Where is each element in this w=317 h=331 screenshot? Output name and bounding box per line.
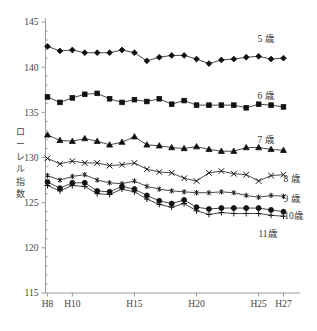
data-point-square: [207, 103, 212, 108]
data-point-square: [182, 98, 187, 103]
data-point-square: [232, 103, 237, 108]
axis-frame: [46, 18, 301, 293]
series-inline-labels: 5 歳6 歳7 歳8 歳9 歳10歳11歳: [257, 33, 303, 239]
data-point-triangle: [243, 144, 249, 149]
data-point-square: [169, 102, 174, 107]
data-point-triangle: [119, 139, 125, 144]
data-point-diamond: [69, 47, 75, 53]
data-point-diamond: [132, 50, 138, 56]
series-label-6歳: 6 歳: [257, 90, 274, 101]
data-point-square: [132, 97, 137, 102]
data-point-diamond: [82, 50, 88, 56]
y-tick-label: 125: [24, 198, 39, 208]
data-point-diamond: [169, 53, 175, 59]
y-tick-label: 135: [24, 108, 39, 118]
data-point-plus: [243, 211, 249, 217]
data-point-diamond: [231, 56, 237, 62]
x-tick-label: H25: [250, 299, 267, 309]
series-11歳: [45, 183, 287, 220]
y-tick-label: 145: [24, 17, 39, 27]
data-point-diamond: [256, 53, 262, 59]
data-point-triangle: [256, 144, 262, 149]
data-point-square: [107, 96, 112, 101]
data-point-cross: [194, 178, 200, 184]
series-10歳: [45, 179, 286, 214]
data-point-square: [82, 92, 87, 97]
data-point-cross: [256, 178, 262, 184]
data-point-diamond: [206, 61, 212, 67]
series-line-8歳: [48, 158, 284, 181]
y-tick-label: 120: [24, 243, 39, 253]
y-axis-title-char: ル: [16, 164, 25, 174]
data-point-plus: [231, 211, 237, 217]
series-7歳: [45, 132, 287, 154]
series-label-11歳: 11歳: [258, 228, 277, 239]
data-point-plus: [256, 211, 262, 217]
data-point-cross: [181, 175, 187, 181]
x-tick-label: H15: [126, 299, 143, 309]
data-point-square: [157, 96, 162, 101]
data-point-diamond: [194, 56, 200, 62]
data-point-square: [269, 103, 274, 108]
data-point-square: [95, 91, 100, 96]
data-point-plus: [268, 212, 274, 218]
x-tick-label: H20: [188, 299, 205, 309]
data-point-diamond: [243, 54, 249, 60]
data-point-square: [194, 103, 199, 108]
series-label-7歳: 7 歳: [257, 134, 274, 145]
y-axis-tick-labels: 145140135130125120115: [24, 17, 39, 298]
y-tick-label: 140: [24, 63, 39, 73]
data-point-diamond: [218, 57, 224, 63]
y-axis-title-char: ー: [16, 139, 25, 149]
y-axis-title-char: レ: [16, 152, 25, 162]
x-tick-label: H8: [42, 299, 54, 309]
chart-axes: [42, 18, 301, 297]
y-axis-title: ローレル指数: [16, 127, 25, 199]
data-point-plus: [218, 210, 224, 216]
data-point-triangle: [144, 142, 150, 147]
series-8歳: [45, 156, 287, 184]
series-label-8歳: 8 歳: [283, 173, 300, 184]
x-tick-label: H27: [275, 299, 292, 309]
y-axis-title-char: 指: [16, 176, 25, 187]
data-point-triangle: [194, 144, 200, 149]
y-axis-title-char: ロ: [16, 127, 25, 137]
data-point-square: [145, 99, 150, 104]
data-point-triangle: [131, 134, 137, 139]
data-point-diamond: [268, 56, 274, 62]
y-tick-label: 115: [25, 288, 39, 298]
data-point-square: [244, 106, 249, 111]
series-label-9歳: 9 歳: [283, 193, 300, 204]
data-point-square: [70, 96, 75, 101]
data-point-square: [256, 102, 261, 107]
data-point-circle: [244, 206, 249, 211]
data-point-circle: [231, 206, 236, 211]
data-point-circle: [256, 206, 261, 211]
series-5歳: [45, 43, 287, 66]
data-point-cross: [144, 166, 150, 172]
data-point-circle: [206, 206, 211, 211]
data-point-triangle: [82, 135, 88, 140]
x-tick-label: H10: [64, 299, 81, 309]
data-point-square: [45, 95, 50, 100]
data-point-diamond: [57, 48, 63, 54]
series-line-5歳: [48, 46, 284, 63]
data-point-square: [219, 103, 224, 108]
data-point-triangle: [57, 137, 63, 142]
data-point-cross: [57, 161, 63, 167]
series-label-5歳: 5 歳: [257, 33, 274, 44]
x-axis-tick-labels: H8H10H15H20H25H27: [42, 299, 292, 309]
chart-container: 145140135130125120115 H8H10H15H20H25H27 …: [0, 0, 317, 331]
chart-series-group: [45, 43, 287, 219]
data-point-square: [281, 105, 286, 110]
line-chart: 145140135130125120115 H8H10H15H20H25H27 …: [0, 0, 317, 331]
data-point-diamond: [107, 50, 113, 56]
y-axis-title-char: 数: [16, 188, 25, 199]
data-point-diamond: [119, 47, 125, 53]
data-point-square: [58, 100, 63, 105]
data-point-square: [120, 100, 125, 105]
data-point-diamond: [281, 55, 287, 61]
y-tick-label: 130: [24, 153, 39, 163]
series-label-10歳: 10歳: [284, 210, 304, 221]
data-point-plus: [206, 212, 212, 218]
